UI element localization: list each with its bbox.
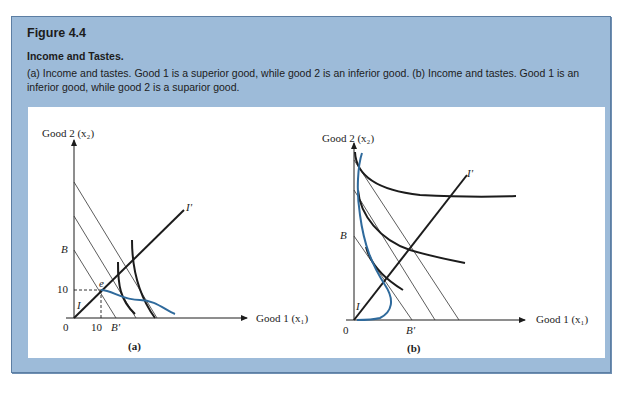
diagram-svg: Good 2 (x₂) Good 1 (x₁) B 10 I e I' 0 10… [0,0,631,397]
b-indiff-curve-mid [358,190,465,263]
b-budget-line-3 [354,160,459,320]
a-label-I: I [76,299,82,311]
a-label-B-prime: B' [111,321,121,333]
b-indiff-curve-top [355,152,516,197]
a-label-e: e [99,277,104,289]
a-panel-label: (a) [128,340,141,353]
b-label-B-prime: B' [406,324,416,336]
panel-b: Good 2 (x₂) Good 1 (x₁) B I I' 0 B' (b) [322,132,588,355]
b-label-I-prime: I' [466,167,474,179]
panel-a: Good 2 (x₂) Good 1 (x₁) B 10 I e I' 0 10… [42,127,308,353]
a-indiff-curve-2 [132,240,155,318]
a-xtick-10: 10 [91,321,103,333]
b-xlabel: Good 1 (x₁) [536,313,588,326]
a-origin: 0 [63,321,69,333]
b-origin: 0 [343,324,349,336]
b-label-I: I [355,300,361,312]
b-panel-label: (b) [407,342,421,355]
b-label-B: B [340,229,347,241]
a-label-B: B [61,243,68,255]
b-budget-line-2 [354,190,435,320]
a-indiff-curve-1 [118,262,135,314]
a-ytick-10: 10 [57,283,69,295]
a-label-I-prime: I' [185,201,193,213]
a-ylabel: Good 2 (x₂) [42,127,94,140]
b-ylabel: Good 2 (x₂) [322,132,374,145]
a-blue-curve [101,290,175,314]
a-xlabel: Good 1 (x₁) [256,312,308,325]
a-income-line [74,210,184,318]
